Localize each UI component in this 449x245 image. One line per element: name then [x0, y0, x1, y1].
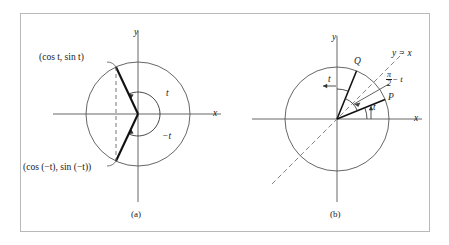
panel-a-leader-lower	[107, 161, 116, 166]
panel-b-complement-rest: − t	[392, 74, 403, 84]
panel-b-arc-t-upper	[337, 89, 348, 91]
panel-a-point-label-lower: (cos (−t), sin (−t))	[23, 162, 91, 172]
panel-a-x-axis-label: x	[213, 108, 217, 118]
panel-b-y-axis-label: y	[332, 32, 336, 42]
panel-a-point-label-upper: (cos t, sin t)	[39, 52, 84, 62]
panel-a-angle-label-positive: t	[166, 88, 169, 98]
panel-b-angle-label-t-upper: t	[328, 74, 331, 84]
panel-a-caption: (a)	[131, 209, 141, 219]
panel-a-ray-upper	[116, 67, 138, 114]
panel-b-complement-fraction: π 2	[386, 71, 392, 88]
panel-b-complement-numerator: π	[386, 71, 392, 79]
panel-a-ray-lower	[116, 114, 138, 161]
panel-a-angle-label-negative: −t	[162, 131, 171, 141]
panel-b-arc-t-lower	[365, 108, 367, 119]
panel-b-line-label-text: y = x	[392, 48, 412, 58]
panel-b-complement-denominator: 2	[386, 79, 392, 88]
panel-b-angle-label-t-lower: t	[373, 102, 376, 112]
panel-a-y-axis-label: y	[134, 27, 138, 37]
panel-b-leader-complement	[354, 84, 389, 104]
panel-b-point-label-p: P	[388, 92, 394, 102]
panel-b-arrow-t-upper	[323, 84, 327, 88]
panel-b-graphic	[226, 14, 431, 233]
panel-a-leader-upper	[107, 62, 116, 67]
panel-b-angle-label-complement: π 2 − t	[386, 71, 403, 88]
panel-b-line-label: y = x	[392, 48, 412, 58]
figure-root: y x (cos t, sin t) (cos (−t), sin (−t)) …	[0, 0, 449, 245]
panel-b-point-label-q: Q	[354, 56, 361, 66]
panel-b-x-axis-label: x	[414, 113, 418, 123]
figure-frame: y x (cos t, sin t) (cos (−t), sin (−t)) …	[20, 13, 430, 232]
panel-a-graphic	[21, 14, 226, 233]
panel-b: y x Q P y = x π 2 − t t t (b)	[226, 14, 431, 233]
panel-b-caption: (b)	[330, 209, 341, 219]
panel-a: y x (cos t, sin t) (cos (−t), sin (−t)) …	[21, 14, 226, 233]
